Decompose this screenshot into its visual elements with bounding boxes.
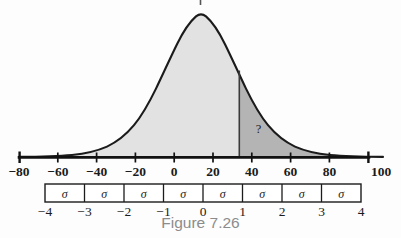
z-tick-label--4: −4: [38, 204, 53, 219]
axis-tick-label--60: −60: [47, 164, 68, 179]
axis-tick-label-40: 40: [245, 164, 259, 179]
normal-distribution-figure: −80 −60 −40 −20 0 20 40 60 80 100 σ: [0, 0, 401, 238]
axis-tick-label--20: −20: [125, 164, 146, 179]
axis-tick-label-0: 0: [171, 164, 178, 179]
axis-tick-label-60: 60: [284, 164, 298, 179]
axis-tick-label--80: −80: [8, 164, 29, 179]
z-tick-label--3: −3: [77, 204, 92, 219]
bell-curve-left-fill: [19, 15, 383, 157]
z-tick-label--2: −2: [117, 204, 131, 219]
figure-container: −80 −60 −40 −20 0 20 40 60 80 100 σ: [0, 0, 401, 238]
axis-tick-label--40: −40: [86, 164, 107, 179]
z-tick-label-4: 4: [358, 204, 365, 219]
bell-curve-area: [19, 0, 383, 157]
axis-tick-label-80: 80: [323, 164, 337, 179]
z-tick-label-2: 2: [279, 204, 286, 219]
sigma-scale-box: σ σ σ σ σ σ σ σ: [45, 184, 361, 202]
axis-tick-label-100: 100: [371, 164, 392, 179]
axis-tick-label-20: 20: [206, 164, 220, 179]
z-tick-label-1: 1: [239, 204, 246, 219]
figure-caption: Figure 7.26: [161, 214, 239, 231]
shaded-region-question-label: ?: [256, 122, 262, 136]
z-tick-label-3: 3: [318, 204, 325, 219]
